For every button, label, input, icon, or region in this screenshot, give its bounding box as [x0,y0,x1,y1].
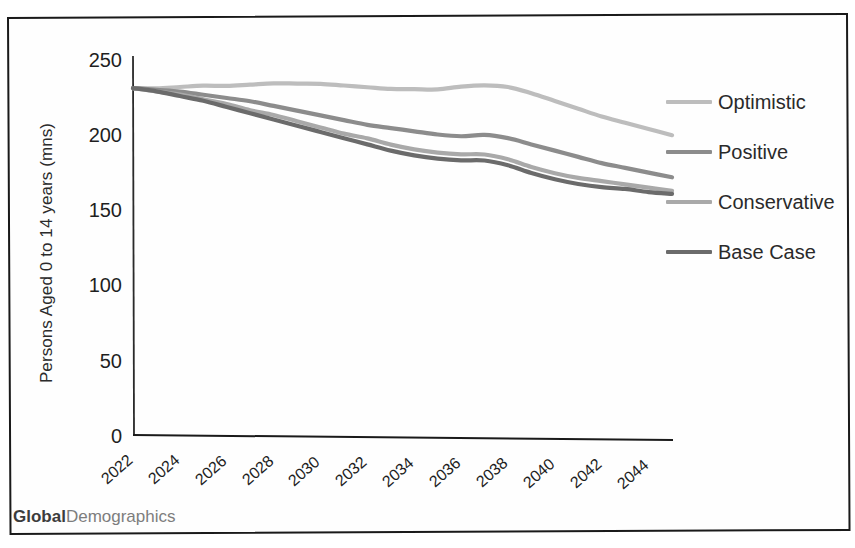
legend-item-label: Optimistic [718,92,806,112]
legend-item-label: Conservative [718,192,835,212]
legend-item[interactable]: Conservative [666,192,835,212]
chart-page: Persons Aged 0 to 14 years (mns) 250 200… [0,0,855,548]
legend-item[interactable]: Positive [666,142,788,162]
legend-item[interactable]: Base Case [666,242,816,262]
brand-watermark: GlobalDemographics [13,508,176,525]
legend-swatch-icon [666,200,712,204]
legend-item-label: Positive [718,142,788,162]
data-series-group [133,83,672,194]
chart-surface: Persons Aged 0 to 14 years (mns) 250 200… [0,0,855,548]
brand-name-secondary: Demographics [66,507,176,526]
legend-item-label: Base Case [718,242,816,262]
legend-item[interactable]: Optimistic [666,92,806,112]
series-line [133,83,672,135]
legend-swatch-icon [666,150,712,154]
brand-name-primary: Global [13,507,66,526]
legend-swatch-icon [666,100,712,104]
y-axis-line [133,56,134,435]
x-axis-line [133,435,673,440]
legend-swatch-icon [666,250,712,254]
